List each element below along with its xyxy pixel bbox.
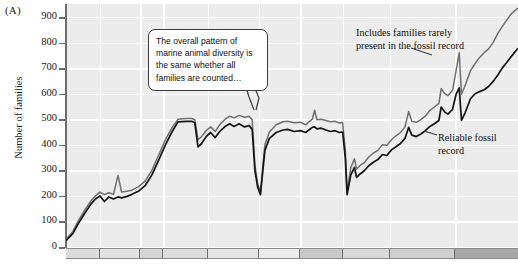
y-axis-label: 700 [17,61,57,72]
callout-box: The overall pattern of marine animal div… [148,29,268,91]
y-axis-label: 600 [17,87,57,98]
period-segment [390,249,455,258]
period-segment [208,249,259,258]
geologic-period-band [66,248,518,259]
period-segment [455,249,518,258]
y-axis-label: 800 [17,36,57,47]
y-axis-tick [59,119,65,121]
y-axis-label: 500 [17,112,57,123]
period-segment [140,249,163,258]
y-axis-tick [59,196,65,198]
period-segment [343,249,390,258]
y-axis-tick [59,247,65,249]
y-axis-tick [59,145,65,147]
period-segment [259,249,300,258]
y-axis-label: 200 [17,189,57,200]
y-axis-tick-labels: 9008007006005004003002001000 [13,0,57,271]
annotation-reliable-record: Reliable fossil record [438,131,516,157]
y-axis-tick [59,17,65,19]
y-axis-label: 400 [17,138,57,149]
y-axis-label: 100 [17,214,57,225]
y-axis-tick [59,221,65,223]
y-axis-tick [59,170,65,172]
period-segment [163,249,208,258]
period-segment [66,249,100,258]
y-axis-label: 0 [17,240,57,251]
y-axis-tick [59,94,65,96]
y-axis-label: 300 [17,163,57,174]
period-segment [300,249,343,258]
y-axis-label: 900 [17,10,57,21]
annotation-all-families: Includes families rarely present in the … [356,26,466,52]
y-axis-tick [59,68,65,70]
y-axis-tick [59,43,65,45]
callout-text: The overall pattern of marine animal div… [156,36,252,83]
figure-panel-a: (A) Number of families 90080070060050040… [0,0,518,271]
period-segment [100,249,140,258]
